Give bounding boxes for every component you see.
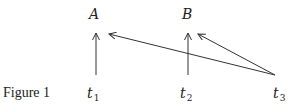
time-label-t3-sub: 3 <box>280 93 286 103</box>
figure-caption: Figure 1 <box>3 86 50 100</box>
diagram-canvas: A B Figure 1 t1 t2 t3 <box>0 0 290 108</box>
arrow-t3-to-A <box>109 34 275 75</box>
time-label-t1-sub: 1 <box>94 93 100 103</box>
time-label-t2-base: t <box>180 85 186 101</box>
node-label-a: A <box>89 7 99 21</box>
node-label-b: B <box>182 7 192 21</box>
arrow-t3-to-B <box>198 34 275 75</box>
time-label-t2: t2 <box>180 86 192 103</box>
time-label-t3-base: t <box>273 85 279 101</box>
time-label-t1-base: t <box>87 85 93 101</box>
time-label-t1: t1 <box>87 86 99 103</box>
time-label-t2-sub: 2 <box>187 93 193 103</box>
time-label-t3: t3 <box>273 86 285 103</box>
